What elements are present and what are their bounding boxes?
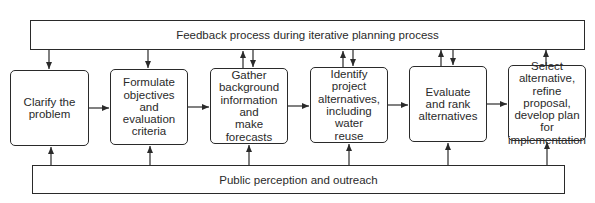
connector-arrows <box>0 0 595 203</box>
